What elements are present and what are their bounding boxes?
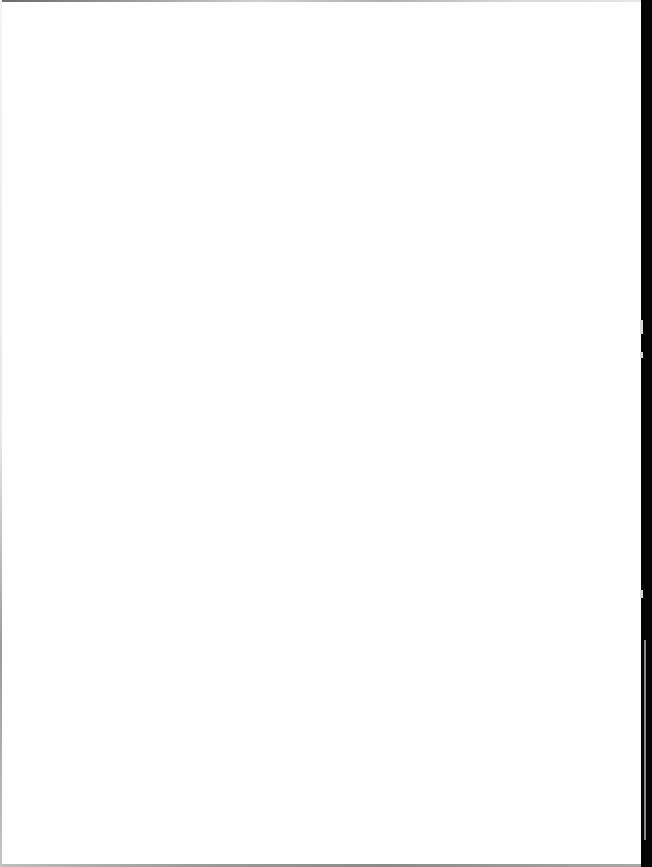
left-scan-edge xyxy=(0,0,2,867)
blank-paper-sheet xyxy=(0,0,641,867)
scan-artifact xyxy=(644,640,646,840)
scan-artifact xyxy=(640,320,643,334)
scanned-page xyxy=(0,0,652,867)
right-scanner-border xyxy=(641,0,652,867)
scan-artifact xyxy=(640,352,643,358)
scan-artifact xyxy=(640,590,643,598)
top-scan-edge xyxy=(0,0,641,2)
